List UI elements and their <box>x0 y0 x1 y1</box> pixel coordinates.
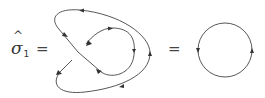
knot-diagram-svg <box>0 0 265 98</box>
arrow-icon <box>79 9 84 13</box>
arrow-up-icon <box>250 48 254 53</box>
right-circle-figure <box>196 23 254 77</box>
arrow-down-icon <box>196 48 200 53</box>
arrow-icon <box>132 49 136 53</box>
arrow-icon <box>62 32 68 37</box>
arrow-icon <box>148 51 152 56</box>
left-knot-figure <box>55 10 150 93</box>
knot-arrows <box>56 9 152 89</box>
arrow-icon <box>108 27 113 31</box>
knot-equation: ^σ1 = = <box>0 0 265 98</box>
